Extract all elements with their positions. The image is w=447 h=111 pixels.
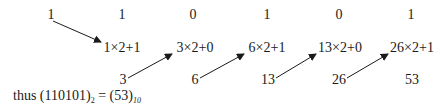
arrow-icon xyxy=(200,54,244,78)
arrow-icon xyxy=(347,54,388,78)
arrow-icon xyxy=(53,21,101,42)
arrow-icon xyxy=(276,54,316,78)
arrow-icon xyxy=(128,54,172,78)
binary-number: (110101) xyxy=(40,88,91,103)
conclusion-prefix: thus xyxy=(13,88,40,103)
conclusion-line: thus (110101)2 = (53)10 xyxy=(13,88,141,109)
equals-sign: = xyxy=(95,88,110,103)
decimal-number: (53) xyxy=(110,88,133,103)
decimal-base: 10 xyxy=(133,96,141,105)
